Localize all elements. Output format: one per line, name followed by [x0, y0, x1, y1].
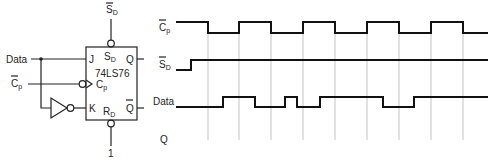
clock-triangle — [86, 80, 92, 88]
sd-inversion-bubble — [108, 40, 115, 47]
inverter-bubble — [67, 105, 74, 112]
cp-bar-signal-label: Cp — [159, 22, 170, 35]
cp-pin-label: Cp — [96, 79, 107, 92]
rd-inversion-bubble — [108, 120, 115, 127]
clock-edge-markers — [208, 34, 463, 140]
q-signal-label: Q — [160, 134, 168, 145]
rd-pin-label: RD — [103, 106, 115, 118]
sd-bar-waveform — [176, 60, 488, 70]
cp-bar-input-label: Cp — [11, 78, 22, 91]
cp-bar-waveform — [176, 22, 488, 33]
timing-diagram: Cp SD Data Q — [153, 20, 488, 145]
sd-bar-input-label: SD — [106, 4, 118, 16]
k-pin-label: K — [89, 103, 96, 114]
data-signal-label: Data — [153, 96, 175, 107]
qbar-pin-label: Q — [126, 103, 134, 114]
circuit-schematic: SD SD J Q 74LS76 Cp K Q RD 1 Data — [6, 3, 144, 159]
diagram-canvas: SD SD J Q 74LS76 Cp K Q RD 1 Data — [0, 0, 494, 163]
rd-input-value: 1 — [108, 148, 114, 159]
sd-bar-signal-label: SD — [159, 59, 171, 71]
data-waveform — [176, 97, 488, 107]
sd-pin-label: SD — [104, 51, 116, 63]
j-pin-label: J — [89, 54, 94, 65]
chip-label: 74LS76 — [95, 68, 130, 79]
clock-inversion-bubble — [79, 81, 86, 88]
data-input-label: Data — [6, 54, 28, 65]
inverter-gate — [51, 98, 67, 118]
q-pin-label: Q — [126, 54, 134, 65]
